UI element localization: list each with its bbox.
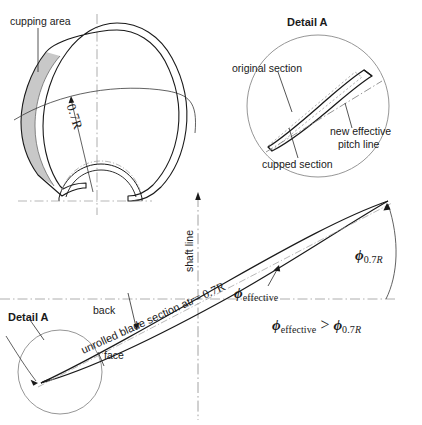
figure-drawing — [0, 0, 422, 425]
hub-fillet-arc — [62, 161, 140, 190]
cupping-area-label: cupping area — [10, 16, 71, 28]
phi-07r-subscript-number: 0.7 — [364, 254, 377, 265]
cupping-area-shade — [21, 52, 60, 186]
blade-planform — [14, 14, 196, 215]
detail-a-top-circle — [247, 35, 389, 177]
inequality-phi-2-subscript-r: R — [355, 324, 361, 335]
original-section-leader — [278, 72, 292, 112]
phi-effective-angle-arc — [6, 336, 36, 381]
new-effective-pitch-line-label-2: pitch line — [338, 139, 379, 151]
inequality-operator: > — [316, 316, 333, 333]
phi-07r-label: ϕ0.7R — [355, 247, 383, 264]
inequality-phi-2-subscript-number: 0.7 — [342, 324, 355, 335]
shaft-line-arrowhead — [195, 192, 201, 200]
detail-a-top-title: Detail A — [287, 16, 328, 28]
new-effective-pitch-line-label-1: new effective — [330, 126, 391, 138]
phi-inequality-statement: ϕeffective>ϕ0.7R — [272, 316, 361, 334]
phi-symbol-07r: ϕ — [355, 247, 364, 263]
original-section-label: original section — [232, 63, 302, 75]
shaft-line-label: shaft line — [184, 230, 196, 272]
detail-a-top-group — [247, 35, 389, 177]
unrolled-blade-section-group — [0, 192, 396, 420]
cupped-section-trailing-edge — [364, 70, 372, 76]
phi-symbol-effective: ϕ — [234, 285, 243, 301]
phi-effective-label: ϕeffective — [234, 285, 278, 302]
radius-arc-07r — [14, 88, 196, 133]
inequality-phi-2: ϕ — [333, 317, 342, 333]
phi-07r-angle-arc — [386, 204, 396, 299]
inequality-phi-1-subscript: effective — [281, 324, 317, 335]
face-label: face — [104, 350, 124, 362]
detail-a-bottom-group — [18, 320, 102, 414]
phi-07r-subscript-r: R — [377, 254, 383, 265]
inequality-phi-1: ϕ — [272, 317, 281, 333]
cupped-section-leader — [289, 128, 298, 158]
back-label: back — [93, 305, 115, 317]
detail-a-bottom-title: Detail A — [8, 311, 49, 323]
phi-effective-left-arrowhead — [31, 380, 38, 386]
figure-root: cupping area 0.7R Detail A original sect… — [0, 0, 422, 425]
phi-effective-subscript: effective — [243, 292, 279, 303]
hub-outer-arc — [59, 164, 142, 198]
cupped-section-label: cupped section — [262, 159, 333, 171]
